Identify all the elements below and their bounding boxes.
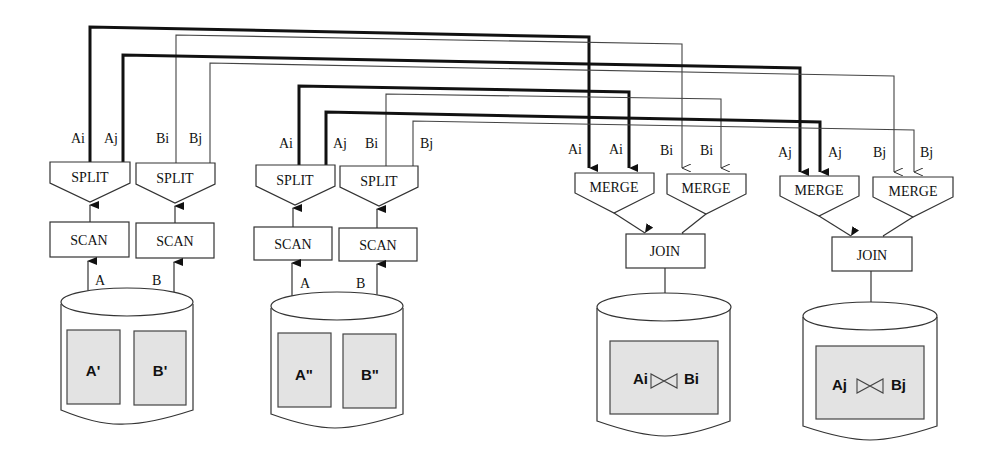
join-label: JOIN	[650, 244, 680, 259]
split-label: SPLIT	[360, 174, 398, 189]
arrow-to-join	[819, 216, 851, 236]
merge-input-label: Bj	[920, 145, 933, 160]
relation-label: B'	[153, 362, 167, 379]
merge-label: MERGE	[795, 183, 844, 198]
disk-result-j: Aj Bj	[803, 302, 937, 440]
merge-input-label: Bj	[873, 145, 886, 160]
relation-label: B"	[361, 366, 379, 383]
split-node-b[interactable]: SPLIT	[136, 163, 215, 203]
scan-label: SCAN	[70, 233, 107, 248]
sink-j: Aj Aj Bj Bj MERGE MERGE JOIN Aj Bj	[778, 145, 953, 440]
merge-label: MERGE	[590, 180, 639, 195]
merge-node-a[interactable]: MERGE	[780, 176, 859, 216]
scan-input-label: A	[300, 276, 311, 291]
relation-label: A"	[295, 366, 313, 383]
source-site-2: Ai Aj Bi Bj SPLIT SPLIT SCAN SCAN A B	[254, 136, 433, 428]
disk-site-1: A' B'	[61, 288, 193, 424]
scan-node-a[interactable]: SCAN	[50, 222, 129, 257]
merge-node-b[interactable]: MERGE	[873, 177, 953, 217]
split-output-label: Ai	[279, 136, 293, 151]
split-node-a[interactable]: SPLIT	[256, 165, 335, 205]
scan-label: SCAN	[274, 237, 311, 252]
split-output-label: Bi	[365, 136, 378, 151]
scan-input-label: B	[152, 273, 161, 288]
result-relation-i	[610, 341, 718, 414]
relation-label: A'	[86, 362, 100, 379]
scan-input-label: A	[95, 273, 106, 288]
split-output-label: Aj	[333, 136, 347, 151]
merge-node-a[interactable]: MERGE	[575, 173, 654, 213]
merge-input-label: Bi	[700, 143, 713, 158]
merge-input-label: Ai	[609, 142, 623, 157]
merge-node-b[interactable]: MERGE	[667, 174, 746, 214]
split-label: SPLIT	[71, 170, 109, 185]
split-output-label: Bj	[420, 136, 433, 151]
arrow-to-join	[883, 217, 913, 236]
merge-label: MERGE	[889, 184, 938, 199]
merge-label: MERGE	[682, 181, 731, 196]
scan-label: SCAN	[156, 234, 193, 249]
merge-input-label: Aj	[828, 145, 842, 160]
scan-node-b[interactable]: SCAN	[136, 223, 214, 258]
result-right: Bj	[891, 376, 906, 393]
arrow-to-join	[682, 214, 706, 233]
result-left: Ai	[633, 370, 648, 387]
split-output-label: Bj	[189, 131, 202, 146]
join-node[interactable]: JOIN	[832, 237, 912, 271]
merge-input-label: Aj	[778, 145, 792, 160]
source-site-1: Ai Aj Bi Bj SPLIT SPLIT SCAN SCAN A B	[50, 131, 215, 424]
sink-i: Ai Ai Bi Bi MERGE MERGE JOIN Ai Bi	[568, 142, 746, 436]
merge-input-label: Bi	[660, 143, 673, 158]
join-label: JOIN	[857, 248, 887, 263]
disk-result-i: Ai Bi	[597, 293, 731, 436]
split-node-b[interactable]: SPLIT	[340, 166, 418, 206]
scan-node-a[interactable]: SCAN	[254, 227, 332, 260]
split-label: SPLIT	[276, 173, 314, 188]
scan-input-label: B	[356, 276, 365, 291]
disk-site-2: A" B"	[271, 292, 403, 428]
split-output-label: Ai	[71, 131, 85, 146]
parallel-join-diagram: Ai Aj Bi Bj SPLIT SPLIT SCAN SCAN A B	[0, 0, 994, 458]
merge-input-label: Ai	[568, 142, 582, 157]
split-output-label: Bi	[156, 131, 169, 146]
scan-label: SCAN	[359, 238, 396, 253]
join-node[interactable]: JOIN	[626, 234, 705, 268]
arrow-to-join	[614, 213, 645, 233]
split-label: SPLIT	[156, 171, 194, 186]
split-node-a[interactable]: SPLIT	[50, 162, 130, 202]
split-output-label: Aj	[104, 131, 118, 146]
result-right: Bi	[684, 370, 699, 387]
result-left: Aj	[832, 376, 847, 393]
scan-node-b[interactable]: SCAN	[339, 228, 417, 261]
